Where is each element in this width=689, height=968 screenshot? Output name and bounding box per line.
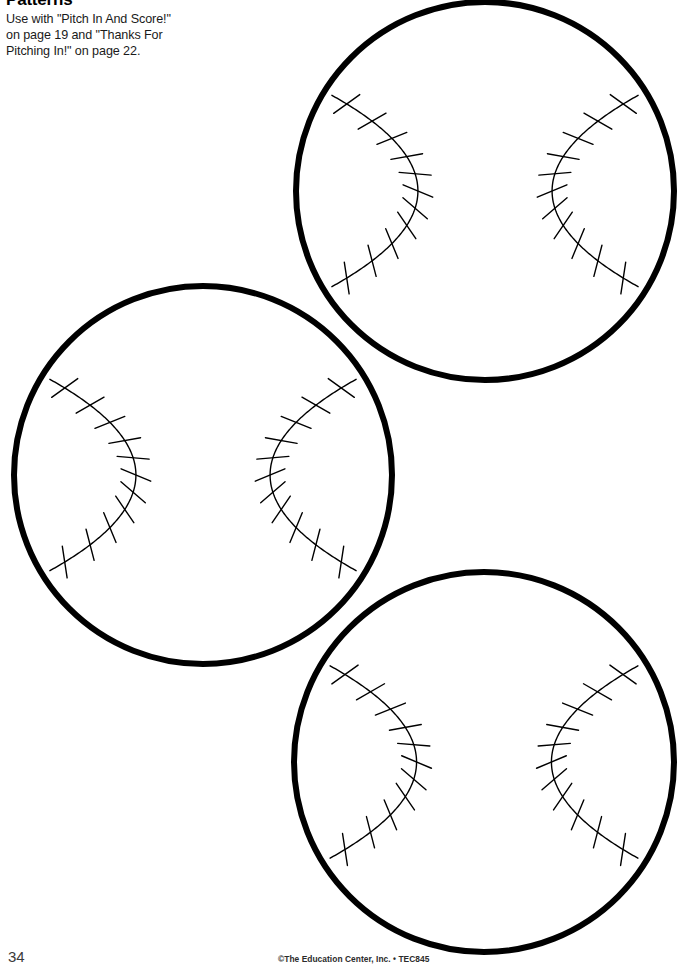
worksheet-page: Patterns Use with "Pitch In And Score!" …	[0, 0, 689, 968]
copyright-notice: ©The Education Center, Inc. • TEC845	[278, 954, 429, 964]
header-block: Patterns Use with "Pitch In And Score!" …	[6, 0, 246, 60]
page-number: 34	[8, 948, 25, 965]
page-footer: 34 ©The Education Center, Inc. • TEC845	[0, 942, 689, 968]
page-title: Patterns	[6, 0, 246, 9]
instructions-line-3: Pitching In!" on page 22.	[6, 43, 246, 59]
instructions-line-1: Use with "Pitch In And Score!"	[6, 11, 246, 27]
instructions-line-2: on page 19 and "Thanks For	[6, 27, 246, 43]
ball-outline-circle	[294, 572, 674, 952]
page-instructions: Use with "Pitch In And Score!" on page 1…	[6, 11, 246, 60]
baseball-bottom-right	[293, 571, 675, 953]
